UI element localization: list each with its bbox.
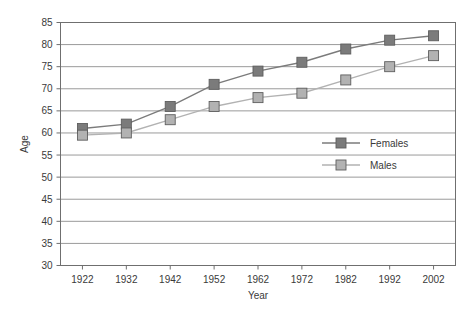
x-tick-label: 1992 (379, 274, 402, 285)
y-tick-label: 80 (41, 39, 53, 50)
data-point-marker (341, 75, 351, 85)
age-by-year-line-chart: 3035404550556065707580851922193219421952… (0, 0, 473, 315)
data-point-marker (385, 35, 395, 45)
y-tick-label: 35 (41, 238, 53, 249)
data-point-marker (253, 66, 263, 76)
y-tick-label: 65 (41, 105, 53, 116)
y-tick-label: 55 (41, 150, 53, 161)
y-tick-label: 40 (41, 216, 53, 227)
data-point-marker (121, 128, 131, 138)
data-point-marker (209, 101, 219, 111)
x-tick-label: 2002 (422, 274, 445, 285)
legend-label: Males (370, 160, 397, 171)
x-tick-label: 1942 (159, 274, 182, 285)
legend-label: Females (370, 138, 408, 149)
x-tick-label: 1932 (115, 274, 138, 285)
legend-marker (336, 138, 346, 148)
x-tick-label: 1962 (247, 274, 270, 285)
y-axis-title: Age (19, 135, 30, 153)
y-tick-label: 50 (41, 172, 53, 183)
legend-marker (336, 160, 346, 170)
data-point-marker (297, 57, 307, 67)
x-tick-label: 1982 (335, 274, 358, 285)
y-tick-label: 30 (41, 260, 53, 271)
data-point-marker (165, 115, 175, 125)
y-tick-label: 70 (41, 83, 53, 94)
x-tick-label: 1952 (203, 274, 226, 285)
data-point-marker (341, 44, 351, 54)
data-point-marker (165, 101, 175, 111)
series-females (77, 31, 438, 134)
data-point-marker (253, 93, 263, 103)
data-point-marker (77, 130, 87, 140)
x-tick-label: 1972 (291, 274, 314, 285)
data-point-marker (429, 51, 439, 61)
y-tick-label: 60 (41, 127, 53, 138)
data-point-marker (385, 62, 395, 72)
series-line (82, 36, 433, 129)
x-tick-label: 1922 (71, 274, 94, 285)
data-point-marker (429, 31, 439, 41)
data-point-marker (209, 79, 219, 89)
y-tick-label: 75 (41, 61, 53, 72)
data-point-marker (297, 88, 307, 98)
y-tick-label: 45 (41, 194, 53, 205)
x-axis-title: Year (248, 290, 269, 301)
legend: FemalesMales (322, 138, 408, 171)
x-axis: 192219321942195219621972198219922002 (71, 266, 445, 285)
chart-canvas: 3035404550556065707580851922193219421952… (0, 0, 473, 315)
y-tick-label: 85 (41, 17, 53, 28)
